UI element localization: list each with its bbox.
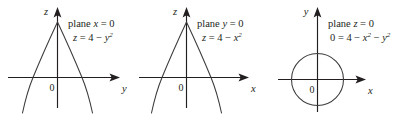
traces-figure: z y 0 plane x = 0 z = 4 − y2 z x 0 — [0, 0, 417, 121]
vertical-axis-label-panel-3: y — [303, 6, 309, 17]
panel-plane-y-equals-0: z x 0 plane y = 0 z = 4 − x2 — [139, 0, 278, 121]
caption-line-2-panel-2: z = 4 − x2 — [201, 31, 242, 43]
horizontal-axis-label-panel-3: x — [367, 85, 373, 96]
vertical-axis-label-panel-2: z — [172, 6, 177, 17]
caption-line-1-panel-3: plane z = 0 — [328, 18, 374, 29]
origin-label-panel-1: 0 — [50, 82, 55, 93]
horizontal-axis-panel-1 — [8, 74, 120, 82]
origin-label-panel-2: 0 — [179, 82, 184, 93]
panel-plane-z-equals-0: y x 0 plane z = 0 0 = 4 − x2 − y2 — [278, 0, 417, 121]
caption-line-1-panel-2: plane y = 0 — [197, 18, 243, 29]
caption-line-2-panel-3: 0 = 4 − x2 − y2 — [330, 31, 391, 43]
origin-label-panel-3: 0 — [310, 84, 315, 95]
caption-line-1-panel-1: plane x = 0 — [68, 18, 114, 29]
horizontal-axis-panel-2 — [139, 74, 249, 82]
vertical-axis-label-panel-1: z — [43, 6, 48, 17]
horizontal-axis-label-panel-2: x — [250, 83, 256, 94]
vertical-axis-panel-3 — [314, 7, 322, 112]
horizontal-axis-label-panel-1: y — [121, 83, 127, 94]
panel-plane-x-equals-0: z y 0 plane x = 0 z = 4 − y2 — [0, 0, 139, 121]
caption-line-2-panel-1: z = 4 − y2 — [72, 31, 113, 43]
